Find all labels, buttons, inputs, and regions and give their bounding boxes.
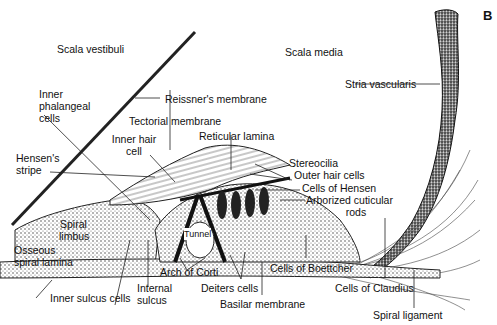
label-inner-phalangeal-cells-1: Inner (39, 88, 63, 100)
label-tectorial-membrane: Tectorial membrane (129, 115, 221, 127)
label-scala-media: Scala media (285, 46, 343, 58)
label-inner-phalangeal-cells-2: phalangeal (39, 100, 90, 112)
label-tunnel: Tunnel (184, 228, 211, 240)
label-reissners-membrane: Reissner's membrane (165, 93, 267, 105)
label-deiters-cells: Deiters cells (201, 282, 258, 294)
label-inner-hair-cell-1: Inner hair (110, 133, 158, 145)
label-arborized-cuticular-rods-1: Arborized cuticular (306, 194, 393, 206)
label-inner-phalangeal-cells-3: cells (39, 112, 60, 124)
label-stereocilia: Stereocilia (289, 157, 338, 169)
label-basilar-membrane: Basilar membrane (220, 298, 305, 310)
label-cells-of-boettcher: Cells of Boettcher (270, 262, 353, 274)
label-spiral-ligament: Spiral ligament (373, 309, 442, 321)
label-scala-vestibuli: Scala vestibuli (57, 43, 124, 55)
stria-vascularis-shape (365, 10, 459, 278)
label-outer-hair-cells: Outer hair cells (294, 169, 365, 181)
label-osseous-spiral-lamina-1: Osseous (14, 244, 55, 256)
label-cells-of-claudius: Cells of Claudius (335, 282, 414, 294)
label-cells-of-hensen: Cells of Hensen (302, 182, 376, 194)
label-arch-of-corti: Arch of Corti (160, 266, 218, 278)
label-osseous-spiral-lamina-2: spiral lamina (14, 256, 73, 268)
label-internal-sulcus-2: sulcus (137, 294, 167, 306)
panel-letter: B (483, 8, 492, 23)
label-spiral-limbus-2: limbus (59, 230, 89, 242)
label-hensens-stripe-2: stripe (16, 164, 42, 176)
label-stria-vascularis: Stria vascularis (345, 78, 416, 90)
label-arborized-cuticular-rods-2: rods (306, 206, 406, 218)
label-inner-hair-cell-2: cell (110, 145, 158, 157)
label-hensens-stripe-1: Hensen's (16, 152, 59, 164)
label-spiral-limbus-1: Spiral (60, 218, 87, 230)
label-internal-sulcus-1: Internal (137, 282, 172, 294)
cochlea-diagram: B Scala vestibuli Scala media Stria vasc… (0, 0, 497, 325)
label-reticular-lamina: Reticular lamina (199, 130, 274, 142)
label-inner-sulcus-cells: Inner sulcus cells (50, 292, 131, 304)
